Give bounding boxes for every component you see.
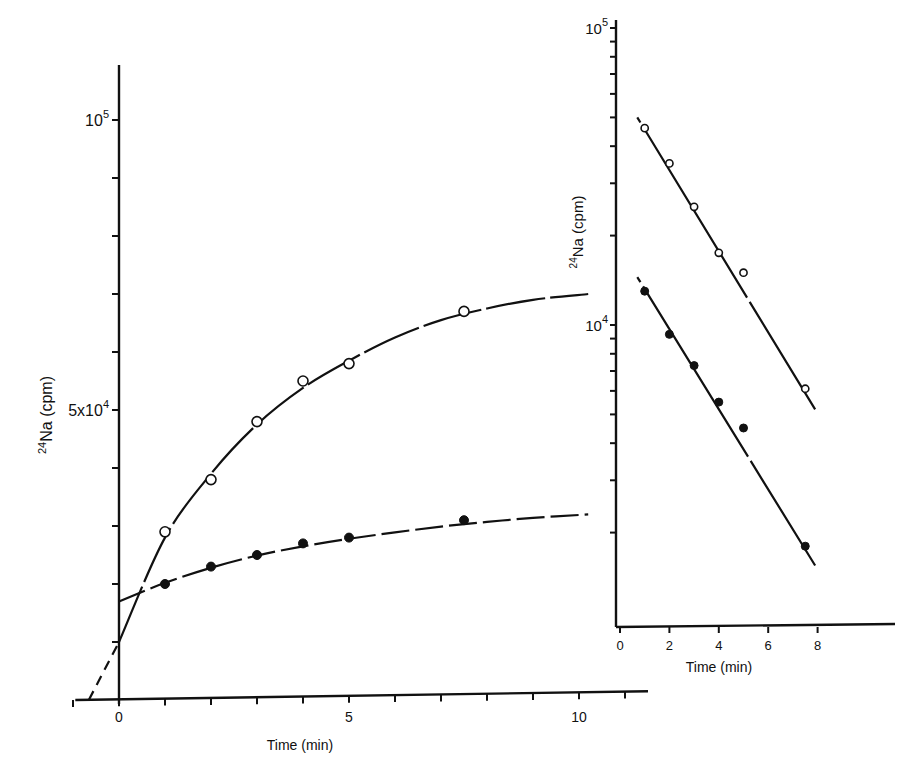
inset-filled-data-point (690, 362, 698, 370)
inset-open-data-point (641, 125, 648, 132)
inset-filled-data-point (740, 424, 748, 432)
filled-data-point (161, 580, 170, 589)
inset-chart: 02468104105 Time (min) 24Na (cpm) (568, 16, 895, 675)
inset-filled-data-point (641, 287, 649, 295)
filled-data-point (460, 516, 469, 525)
open-data-point (160, 527, 170, 537)
inset-open-data-point (740, 269, 747, 276)
main-y-axis-label-main: Na (cpm) (38, 376, 55, 442)
inset-y-tick-label: 105 (585, 16, 608, 37)
inset-open-data-point (715, 249, 722, 256)
inset-x-tick-label: 8 (814, 638, 821, 653)
inset-open-data-point (802, 385, 809, 392)
inset-y-axis-label-sup: 24 (568, 257, 579, 269)
open-data-point (459, 306, 469, 316)
inset-x-axis (616, 624, 895, 627)
filled-data-point (253, 551, 262, 560)
inset-open-data-point (666, 160, 673, 167)
chart-svg: 05105x104105 Time (min) 24Na (cpm) 02468… (0, 0, 916, 772)
filled-data-point (299, 539, 308, 548)
open-data-point (344, 359, 354, 369)
main-curves (89, 294, 588, 700)
inset-y-axis-label: 24Na (cpm) (568, 196, 586, 269)
inset-filled-data-point (801, 542, 809, 550)
inset-x-axis-label: Time (min) (686, 659, 752, 675)
inset-x-tick-label: 4 (715, 638, 722, 653)
inset-axes: 02468104105 (585, 16, 895, 653)
figure: 05105x104105 Time (min) 24Na (cpm) 02468… (0, 0, 916, 772)
open-data-point (298, 376, 308, 386)
inset-y-axis-label-main: Na (cpm) (569, 196, 586, 258)
main-y-axis-label-sup: 24 (36, 442, 48, 454)
main-y-tick-label: 5x104 (68, 398, 109, 419)
open-data-point (252, 417, 262, 427)
main-axes: 05105x104105 (68, 65, 648, 725)
main-x-axis-label: Time (min) (267, 737, 333, 753)
inset-curves (637, 117, 815, 565)
inset-points (641, 125, 810, 551)
inset-open-series-fit-line (637, 117, 815, 409)
inset-x-tick-label: 2 (666, 638, 673, 653)
main-points (160, 306, 469, 588)
filled-data-point (345, 533, 354, 542)
open-series-extrapolation-dashed (89, 642, 119, 700)
inset-filled-data-point (665, 330, 673, 338)
main-y-tick-label: 105 (85, 108, 109, 129)
filled-series-fit-curve (119, 514, 588, 601)
main-x-tick-label: 0 (115, 709, 123, 725)
inset-x-tick-label: 6 (765, 638, 772, 653)
filled-data-point (207, 562, 216, 571)
inset-filled-series-fit-line (637, 277, 815, 565)
main-x-axis (75, 691, 648, 700)
open-data-point (206, 475, 216, 485)
inset-x-tick-label: 0 (616, 638, 623, 653)
open-series-fit-curve (119, 294, 588, 642)
inset-y-tick-label: 104 (585, 313, 608, 334)
main-x-tick-label: 10 (571, 709, 587, 725)
inset-filled-data-point (715, 398, 723, 406)
inset-open-data-point (691, 203, 698, 210)
main-y-axis-label: 24Na (cpm) (36, 376, 55, 454)
main-chart: 05105x104105 Time (min) 24Na (cpm) (36, 65, 648, 753)
main-x-tick-label: 5 (345, 709, 353, 725)
